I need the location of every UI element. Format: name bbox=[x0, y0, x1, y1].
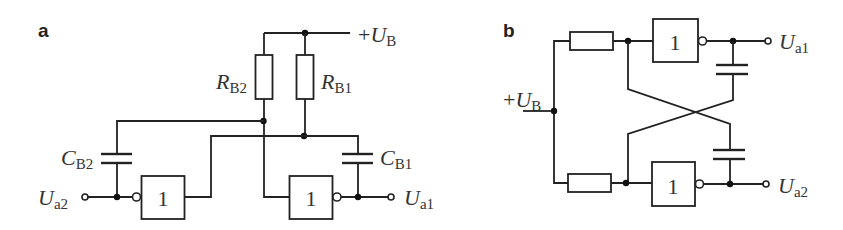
inversion-bubble bbox=[696, 180, 704, 188]
resistor-rb1 bbox=[297, 55, 314, 99]
gate-right-label: 1 bbox=[306, 186, 317, 211]
wire-rb2-to-gate-right bbox=[264, 99, 290, 197]
circuit-figure: a +UB RB2 RB1 CB2 bbox=[0, 0, 843, 230]
output-label-ua2-b: Ua2 bbox=[778, 173, 808, 200]
capacitor-label-cb1: CB1 bbox=[380, 145, 412, 172]
panel-a: a +UB RB2 RB1 CB2 bbox=[38, 20, 434, 219]
output-label-ua1-a: Ua1 bbox=[404, 185, 434, 212]
panel-label-b: b bbox=[503, 20, 515, 41]
inversion-bubble bbox=[699, 37, 707, 45]
capacitor-label-cb2: CB2 bbox=[61, 145, 93, 172]
supply-label-b: +UB bbox=[503, 87, 541, 114]
terminal-ua2 bbox=[82, 194, 88, 200]
inversion-bubble bbox=[333, 193, 341, 201]
resistor-bottom bbox=[568, 174, 611, 192]
panel-label-a: a bbox=[38, 20, 49, 41]
junction-dot bbox=[727, 181, 733, 187]
resistor-label-rb1: RB1 bbox=[320, 69, 352, 96]
gate-left-label: 1 bbox=[158, 186, 169, 211]
output-label-ua2-a: Ua2 bbox=[38, 185, 68, 212]
resistor-label-rb2: RB2 bbox=[215, 69, 247, 96]
junction-dot bbox=[114, 194, 120, 200]
supply-label-a: +UB bbox=[358, 22, 396, 49]
panel-b: b +UB 1 Ua1 bbox=[503, 19, 809, 206]
gate-bottom-label: 1 bbox=[668, 174, 679, 199]
wire-node-to-cb2 bbox=[117, 121, 264, 154]
junction-dot bbox=[623, 180, 629, 186]
terminal-ua1 bbox=[388, 194, 394, 200]
inversion-bubble bbox=[133, 193, 141, 201]
resistor-rb2 bbox=[256, 55, 273, 99]
resistor-top bbox=[570, 32, 613, 50]
junction-dot bbox=[551, 108, 557, 114]
terminal-ua1-b bbox=[765, 38, 771, 44]
output-label-ua1-b: Ua1 bbox=[779, 29, 809, 56]
gate-top-label: 1 bbox=[670, 30, 681, 55]
junction-dot bbox=[355, 194, 361, 200]
terminal-ua2-b bbox=[763, 181, 769, 187]
